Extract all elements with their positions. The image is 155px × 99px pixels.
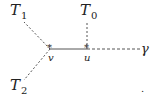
label-T2-sub: 2 (21, 85, 27, 96)
label-T1-base: T (10, 1, 20, 19)
label-T2-base: T (10, 76, 20, 94)
label-T0-sub: 0 (91, 10, 97, 21)
label-T0: T0 (80, 3, 97, 18)
edge-v-T2 (24, 49, 50, 80)
label-T1-sub: 1 (21, 10, 27, 21)
node-u-label: u (84, 53, 90, 63)
label-gamma: γ (141, 42, 149, 55)
stray-dot: . (141, 84, 144, 94)
label-T0-base: T (80, 1, 90, 19)
label-T2: T2 (10, 78, 27, 93)
label-T1: T1 (10, 3, 27, 18)
node-v-label: v (48, 53, 54, 63)
